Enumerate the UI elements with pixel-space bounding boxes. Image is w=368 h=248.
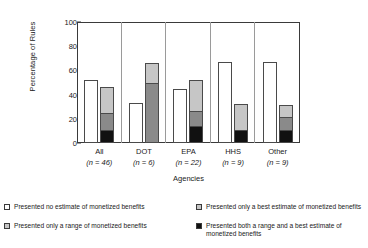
segment-both: [100, 130, 114, 143]
x-label-name: EPA: [166, 147, 211, 158]
bar-groups: [77, 22, 300, 143]
segment-no-estimate: [173, 89, 187, 143]
x-label-name: DOT: [122, 147, 167, 158]
segment-best-only: [279, 105, 293, 118]
x-label-n: (n = 9): [255, 158, 300, 169]
segment-best-only: [189, 80, 203, 113]
x-label-name: Other: [255, 147, 300, 158]
segment-no-estimate: [263, 62, 277, 143]
segment-best-only: [145, 63, 159, 84]
chart-container: Percentage of Rules 100 80 60 40 20 0: [0, 0, 368, 248]
y-tick-label-80: 80: [51, 42, 77, 51]
legend-swatch-black-icon: [196, 223, 202, 229]
x-label-hhs: HHS (n = 9): [211, 147, 256, 168]
bar-hhs-combined: [234, 104, 248, 143]
x-axis-labels: All (n = 46) DOT (n = 6) EPA (n = 22) HH…: [77, 147, 300, 168]
segment-both: [279, 130, 293, 143]
bar-group-hhs: [211, 22, 256, 143]
y-tick-label-100: 100: [51, 18, 77, 27]
bar-group-dot: [122, 22, 167, 143]
segment-both: [234, 130, 248, 143]
legend-item-best-only: Presented only a best estimate of moneti…: [196, 203, 368, 212]
x-axis-title: Agencies: [77, 174, 300, 183]
legend-label: Presented only a range of monetized bene…: [14, 222, 147, 231]
bar-dot-combined: [145, 63, 159, 143]
segment-range-only: [100, 113, 114, 131]
bar-group-other: [255, 22, 300, 143]
x-label-all: All (n = 46): [77, 147, 122, 168]
legend-swatch-lightgray-icon: [196, 204, 202, 210]
bar-all-combined: [100, 87, 114, 143]
legend: Presented no estimate of monetized benef…: [4, 203, 364, 239]
bar-hhs-no-estimate: [218, 62, 232, 143]
x-label-n: (n = 6): [122, 158, 167, 169]
segment-range-only: [189, 111, 203, 127]
bar-epa-combined: [189, 80, 203, 143]
bar-epa-no-estimate: [173, 89, 187, 143]
y-axis-title: Percentage of Rules: [28, 7, 37, 107]
y-tick-label-40: 40: [51, 90, 77, 99]
x-label-epa: EPA (n = 22): [166, 147, 211, 168]
y-tick-label-0: 0: [51, 139, 77, 148]
legend-swatch-lightgray-icon: [4, 223, 10, 229]
bar-group-all: [77, 22, 122, 143]
x-label-n: (n = 9): [211, 158, 256, 169]
bar-dot-no-estimate: [129, 103, 143, 143]
bar-group-epa: [166, 22, 211, 143]
y-tick-label-60: 60: [51, 66, 77, 75]
y-axis: 100 80 60 40 20 0: [44, 0, 77, 165]
segment-range-only: [145, 83, 159, 144]
legend-item-no-estimate: Presented no estimate of monetized benef…: [4, 203, 196, 212]
x-label-dot: DOT (n = 6): [122, 147, 167, 168]
legend-label: Presented only a best estimate of moneti…: [206, 203, 361, 212]
segment-no-estimate: [218, 62, 232, 143]
bar-other-combined: [279, 105, 293, 143]
x-label-name: All: [77, 147, 122, 158]
y-tick-label-20: 20: [51, 114, 77, 123]
segment-both: [189, 126, 203, 143]
x-label-other: Other (n = 9): [255, 147, 300, 168]
legend-item-both: Presented both a range and a best estima…: [196, 222, 368, 239]
segment-range-only: [279, 117, 293, 130]
legend-item-range-only: Presented only a range of monetized bene…: [4, 222, 196, 239]
segment-no-estimate: [129, 103, 143, 143]
bar-all-no-estimate: [84, 80, 98, 143]
bar-other-no-estimate: [263, 62, 277, 143]
segment-best-only: [100, 87, 114, 114]
legend-label: Presented both a range and a best estima…: [206, 222, 368, 239]
segment-no-estimate: [84, 80, 98, 143]
legend-swatch-white-icon: [4, 204, 10, 210]
x-label-n: (n = 46): [77, 158, 122, 169]
x-label-n: (n = 22): [166, 158, 211, 169]
legend-label: Presented no estimate of monetized benef…: [14, 203, 145, 212]
segment-best-only: [234, 104, 248, 131]
x-label-name: HHS: [211, 147, 256, 158]
